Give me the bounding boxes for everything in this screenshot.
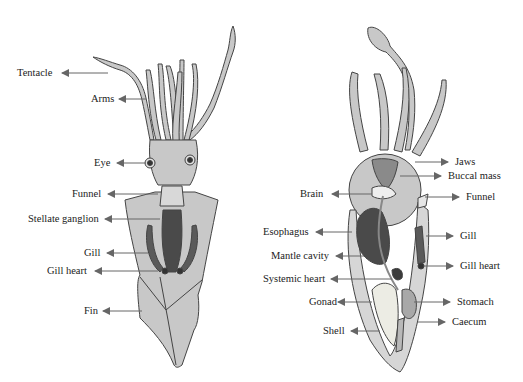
arm	[350, 72, 368, 152]
label-brain: Brain	[300, 188, 323, 200]
label-eye: Eye	[94, 157, 110, 169]
left-squid	[93, 26, 235, 367]
arm	[412, 80, 446, 156]
label-gill-heart-right: Gill heart	[460, 260, 500, 272]
label-esophagus: Esophagus	[263, 226, 309, 238]
label-funnel-left: Funnel	[72, 188, 101, 200]
label-funnel-right: Funnel	[466, 191, 495, 203]
label-stellate-ganglion: Stellate ganglion	[28, 213, 99, 225]
label-arms: Arms	[91, 93, 114, 105]
right-squid	[348, 27, 446, 372]
gill-heart-left	[162, 268, 168, 274]
label-gill-left: Gill	[84, 247, 100, 259]
funnel	[160, 186, 184, 206]
label-gonad: Gonad	[309, 296, 337, 308]
label-jaws: Jaws	[455, 156, 475, 168]
label-buccal-mass: Buccal mass	[448, 170, 501, 182]
label-gill-right: Gill	[460, 230, 476, 242]
label-caecum: Caecum	[452, 316, 486, 328]
label-fin: Fin	[84, 305, 98, 317]
label-shell: Shell	[323, 325, 345, 337]
systemic-heart	[392, 268, 402, 280]
label-stomach: Stomach	[457, 296, 494, 308]
arm	[374, 74, 389, 150]
label-gill-heart-left: Gill heart	[47, 265, 87, 277]
label-tentacle: Tentacle	[17, 67, 52, 79]
stomach	[402, 289, 416, 318]
squid-anatomy-figure: Tentacle Arms Eye Funnel Stellate gangli…	[0, 0, 523, 382]
gill-heart	[418, 263, 424, 269]
gill-heart-right	[177, 268, 183, 274]
viscera	[162, 210, 182, 272]
label-systemic-heart: Systemic heart	[263, 273, 325, 285]
label-mantle-cavity: Mantle cavity	[271, 250, 329, 262]
